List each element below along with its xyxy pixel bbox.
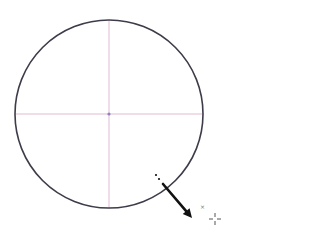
center-point-handle[interactable]	[107, 112, 110, 115]
arrow-dot	[155, 174, 157, 176]
x-marker-icon: ×	[200, 204, 205, 210]
arrow-dot	[158, 178, 160, 180]
